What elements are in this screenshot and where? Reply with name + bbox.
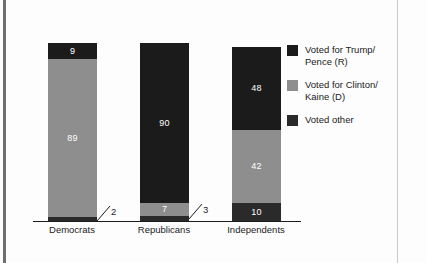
legend-item-other: Voted other — [287, 114, 397, 126]
bar-segment-independents-trump: 48 — [232, 47, 281, 130]
bar-value-label: 48 — [251, 84, 261, 93]
bar-segment-democrats-clinton: 89 — [48, 59, 97, 217]
stacked-bar-chart-figure: 9 89 2 Democrats 90 7 3 Republicans — [0, 0, 427, 263]
bar-segment-democrats-trump: 9 — [48, 43, 97, 59]
legend-item-label: Voted for Trump/ Pence (R) — [305, 44, 375, 68]
bar-segment-democrats-other — [48, 217, 97, 221]
bar-value-label: 42 — [251, 162, 261, 171]
bar-segment-independents-clinton: 42 — [232, 130, 281, 203]
legend-item-label: Voted other — [305, 114, 354, 126]
bar-segment-republicans-clinton: 7 — [140, 203, 189, 216]
bar-value-label-democrats-other: 2 — [111, 207, 116, 217]
legend-swatch-icon — [287, 80, 298, 91]
bar-segment-independents-other: 10 — [232, 203, 281, 221]
bar-segment-republicans-other — [140, 216, 189, 221]
bar-value-label-republicans-other: 3 — [203, 205, 208, 215]
legend-swatch-icon — [287, 115, 298, 126]
bar-democrats: 9 89 — [48, 43, 97, 221]
bar-independents: 48 42 10 — [232, 47, 281, 221]
chart-legend: Voted for Trump/ Pence (R) Voted for Cli… — [287, 44, 397, 137]
legend-item-trump-pence: Voted for Trump/ Pence (R) — [287, 44, 397, 68]
x-axis-line — [33, 221, 301, 222]
bar-value-label: 90 — [159, 119, 169, 128]
bar-value-label: 10 — [251, 208, 261, 217]
legend-item-clinton-kaine: Voted for Clinton/ Kaine (D) — [287, 79, 397, 103]
legend-item-label: Voted for Clinton/ Kaine (D) — [305, 79, 378, 103]
bar-value-label: 7 — [162, 205, 167, 214]
legend-swatch-icon — [287, 45, 298, 56]
bar-segment-republicans-trump: 90 — [140, 43, 189, 203]
bar-republicans: 90 7 — [140, 43, 189, 221]
bar-value-label: 9 — [70, 47, 75, 56]
bar-value-label: 89 — [67, 134, 77, 143]
category-label-independents: Independents — [201, 225, 311, 235]
